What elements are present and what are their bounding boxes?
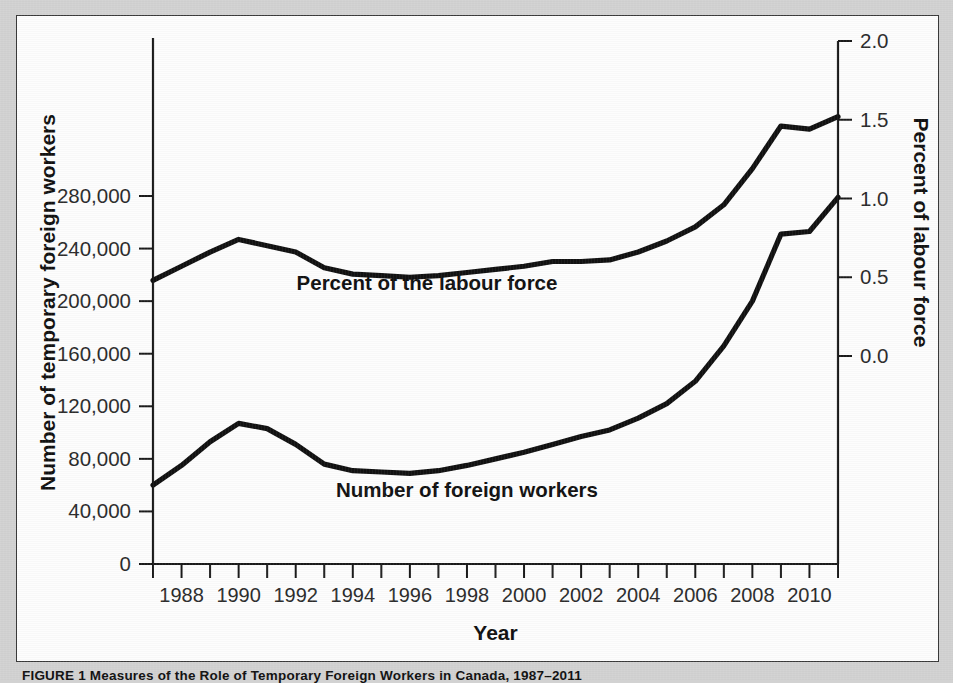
y-axis-title: Number of temporary foreign workers bbox=[36, 114, 59, 491]
series-label-number: Number of foreign workers bbox=[336, 478, 598, 501]
series-label-percent: Percent of the labour force bbox=[297, 271, 558, 294]
right-axis-tick-label: 0.5 bbox=[860, 265, 889, 288]
line-chart: 040,00080,000120,000160,000200,000240,00… bbox=[17, 16, 940, 663]
left-axis-tick-label: 0 bbox=[120, 552, 131, 575]
series-line-percent bbox=[153, 117, 838, 281]
x-axis-tick-label: 1996 bbox=[388, 584, 433, 606]
left-axis-tick-label: 160,000 bbox=[57, 342, 131, 365]
x-axis-tick-label: 1998 bbox=[445, 584, 490, 606]
left-axis-tick-label: 80,000 bbox=[68, 447, 131, 470]
left-axis-tick-label: 240,000 bbox=[57, 237, 131, 260]
x-axis-tick-label: 1990 bbox=[216, 584, 261, 606]
x-axis-tick-label: 2008 bbox=[730, 584, 775, 606]
right-axis-tick-label: 0.0 bbox=[860, 344, 889, 367]
left-axis-tick-label: 120,000 bbox=[57, 394, 131, 417]
right-axis-tick-label: 1.0 bbox=[860, 187, 889, 210]
x-axis-tick-label: 2010 bbox=[787, 584, 832, 606]
left-axis-tick-label: 200,000 bbox=[57, 289, 131, 312]
figure-caption: FIGURE 1 Measures of the Role of Tempora… bbox=[22, 668, 942, 683]
series-line-number bbox=[153, 197, 838, 485]
right-axis-tick-label: 2.0 bbox=[860, 29, 889, 52]
figure-panel: 040,00080,000120,000160,000200,000240,00… bbox=[16, 15, 939, 662]
x-axis-tick-label: 2002 bbox=[559, 584, 604, 606]
x-axis-tick-label: 2004 bbox=[616, 584, 661, 606]
x-axis-tick-label: 1994 bbox=[331, 584, 376, 606]
chart-area: 040,00080,000120,000160,000200,000240,00… bbox=[17, 16, 938, 661]
left-axis-tick-label: 280,000 bbox=[57, 184, 131, 207]
x-axis-tick-label: 2006 bbox=[673, 584, 718, 606]
x-axis-title: Year bbox=[473, 621, 517, 644]
left-axis-tick-label: 40,000 bbox=[68, 499, 131, 522]
y2-axis-title: Percent of labour force bbox=[910, 118, 933, 348]
x-axis-tick-label: 1988 bbox=[159, 584, 204, 606]
x-axis-tick-label: 1992 bbox=[273, 584, 318, 606]
x-axis-tick-label: 2000 bbox=[502, 584, 547, 606]
right-axis-tick-label: 1.5 bbox=[860, 108, 889, 131]
